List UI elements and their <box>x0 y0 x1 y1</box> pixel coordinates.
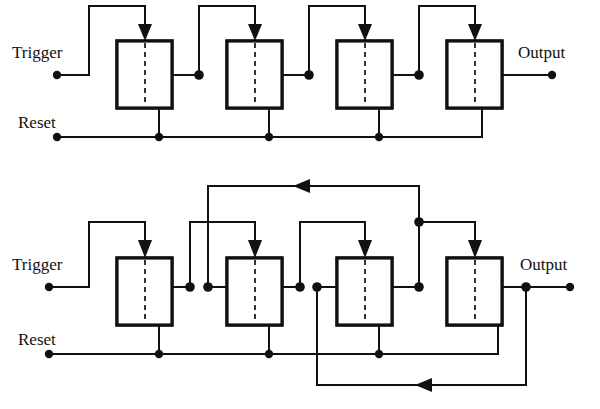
top-flipflop-3-trigger-arrow-icon <box>358 24 372 41</box>
bottom-reset-label: Reset <box>18 330 56 349</box>
top-output-terminal[interactable] <box>548 71 556 79</box>
bottom-reset-junction-ff1 <box>155 350 163 358</box>
bottom-flipflop-1-trigger-arrow-icon <box>138 240 152 258</box>
bottom-circuit: Trigger Reset <box>12 179 574 392</box>
bottom-trigger-label: Trigger <box>12 255 63 274</box>
top-reset-junction-ff3 <box>375 133 383 141</box>
bottom-reset-junction-ff3 <box>375 350 383 358</box>
top-trigger-label: Trigger <box>12 43 63 62</box>
top-reset-junction-ff2 <box>265 133 273 141</box>
top-flipflop-4-trigger-arrow-icon <box>468 24 482 41</box>
bottom-reset-junction-ff2 <box>265 350 273 358</box>
top-flipflop-1-trigger-arrow-icon <box>138 24 152 41</box>
top-reset-junction-ff1 <box>155 133 163 141</box>
bottom-lower-feedback-arrow-icon <box>415 378 432 392</box>
top-flipflop-2-trigger-arrow-icon <box>248 24 262 41</box>
bottom-link-ff3-to-ff4 <box>419 222 475 248</box>
bottom-flipflop-2-trigger-arrow-icon <box>248 240 262 258</box>
top-reset-label: Reset <box>18 113 56 132</box>
top-circuit: Trigger Reset <box>12 6 566 141</box>
bottom-output-terminal[interactable] <box>566 283 574 291</box>
bottom-upper-feedback-arrow-icon <box>293 179 310 193</box>
bottom-output-label: Output <box>520 255 568 274</box>
circuit-diagram-figure: Trigger Reset <box>0 0 600 409</box>
bottom-flipflop-4-trigger-arrow-icon <box>468 240 482 258</box>
top-output-label: Output <box>518 43 566 62</box>
bottom-flipflop-3-trigger-arrow-icon <box>358 240 372 258</box>
